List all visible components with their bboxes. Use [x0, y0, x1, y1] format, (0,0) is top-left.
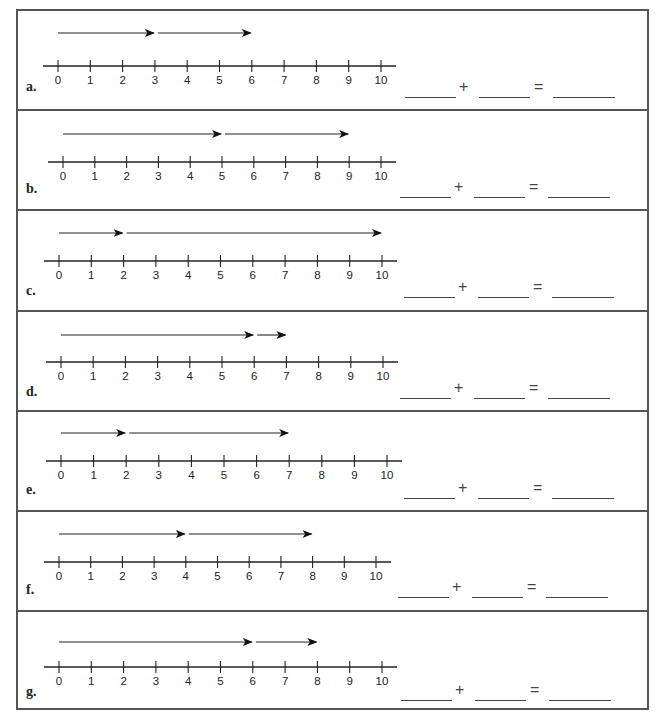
problem-row-d: 012345678910d.+=: [18, 312, 647, 412]
tick-label: 6: [250, 675, 256, 687]
sum-blank[interactable]: [546, 597, 608, 598]
tick-label: 9: [346, 675, 352, 687]
tick-label: 1: [90, 469, 96, 481]
tick-label: 4: [185, 675, 192, 687]
tick-label: 0: [56, 570, 62, 582]
addend-1-blank[interactable]: [398, 597, 449, 598]
tick-label: 1: [88, 675, 94, 687]
problem-row-c: 012345678910c.+=: [18, 211, 647, 312]
sum-blank[interactable]: [548, 398, 610, 399]
equals-sign: =: [530, 681, 539, 699]
tick-label: 8: [315, 370, 321, 382]
problem-row-g: 012345678910g.+=: [18, 612, 647, 710]
tick-label: 10: [375, 74, 388, 86]
tick-label: 5: [219, 370, 225, 382]
tick-label: 4: [185, 269, 192, 281]
tick-label: 9: [341, 570, 347, 582]
number-line: 012345678910: [18, 11, 418, 111]
tick-label: 6: [249, 74, 255, 86]
tick-label: 2: [120, 269, 126, 281]
problem-label: g.: [26, 684, 37, 700]
tick-label: 8: [314, 170, 320, 182]
addend-1-blank[interactable]: [401, 700, 452, 701]
tick-label: 2: [119, 74, 125, 86]
number-line: 012345678910: [18, 211, 418, 312]
problem-label: b.: [26, 181, 37, 197]
addend-1-blank[interactable]: [404, 498, 455, 499]
tick-label: 9: [348, 370, 354, 382]
tick-label: 2: [122, 370, 128, 382]
plus-sign: +: [459, 78, 468, 96]
addend-2-blank[interactable]: [478, 498, 529, 499]
addend-2-blank[interactable]: [478, 297, 529, 298]
addend-2-blank[interactable]: [472, 597, 523, 598]
addend-2-blank[interactable]: [474, 398, 525, 399]
tick-label: 0: [60, 170, 66, 182]
tick-label: 0: [58, 469, 64, 481]
tick-label: 5: [217, 269, 223, 281]
sum-blank[interactable]: [548, 197, 610, 198]
tick-label: 6: [250, 269, 256, 281]
sum-blank[interactable]: [552, 297, 614, 298]
addend-1-blank[interactable]: [404, 297, 455, 298]
tick-label: 5: [216, 74, 222, 86]
addend-1-blank[interactable]: [405, 97, 456, 98]
tick-label: 0: [55, 74, 61, 86]
problem-label: d.: [26, 384, 37, 400]
tick-label: 3: [156, 469, 162, 481]
addend-2-blank[interactable]: [474, 197, 525, 198]
tick-label: 7: [282, 170, 288, 182]
tick-label: 3: [153, 675, 159, 687]
tick-label: 8: [319, 469, 325, 481]
tick-label: 2: [119, 570, 125, 582]
equals-sign: =: [529, 178, 538, 196]
sum-blank[interactable]: [552, 498, 614, 499]
plus-sign: +: [458, 479, 467, 497]
tick-label: 1: [88, 269, 94, 281]
addend-2-blank[interactable]: [479, 97, 530, 98]
tick-label: 6: [251, 170, 257, 182]
tick-label: 4: [188, 469, 195, 481]
tick-label: 1: [87, 570, 93, 582]
number-line: 012345678910: [18, 312, 418, 412]
tick-label: 3: [152, 74, 158, 86]
tick-label: 8: [314, 269, 320, 281]
tick-label: 8: [309, 570, 315, 582]
tick-label: 7: [281, 74, 287, 86]
number-line: 012345678910: [18, 512, 418, 612]
tick-label: 3: [155, 170, 161, 182]
tick-label: 5: [214, 570, 220, 582]
worksheet-frame: 012345678910a.+=012345678910b.+=01234567…: [16, 9, 649, 710]
tick-label: 9: [346, 269, 352, 281]
plus-sign: +: [454, 178, 463, 196]
tick-label: 10: [376, 269, 389, 281]
problem-row-e: 012345678910e.+=: [18, 412, 647, 512]
tick-label: 0: [58, 370, 64, 382]
tick-label: 4: [187, 170, 194, 182]
equals-sign: =: [534, 78, 543, 96]
tick-label: 6: [246, 570, 252, 582]
tick-label: 4: [184, 74, 191, 86]
number-line: 012345678910: [18, 111, 418, 211]
addend-2-blank[interactable]: [475, 700, 526, 701]
sum-blank[interactable]: [549, 700, 611, 701]
tick-label: 10: [376, 675, 389, 687]
problem-label: f.: [26, 582, 34, 598]
equals-sign: =: [529, 379, 538, 397]
tick-label: 7: [282, 675, 288, 687]
tick-label: 1: [90, 370, 96, 382]
problem-label: c.: [26, 283, 36, 299]
addend-1-blank[interactable]: [400, 197, 451, 198]
tick-label: 10: [381, 469, 394, 481]
tick-label: 3: [153, 269, 159, 281]
problem-label: e.: [26, 482, 36, 498]
tick-label: 9: [346, 170, 352, 182]
tick-label: 0: [56, 675, 62, 687]
addend-1-blank[interactable]: [400, 398, 451, 399]
tick-label: 9: [345, 74, 351, 86]
tick-label: 6: [251, 370, 257, 382]
tick-label: 5: [217, 675, 223, 687]
tick-label: 5: [221, 469, 227, 481]
plus-sign: +: [455, 681, 464, 699]
sum-blank[interactable]: [553, 97, 615, 98]
